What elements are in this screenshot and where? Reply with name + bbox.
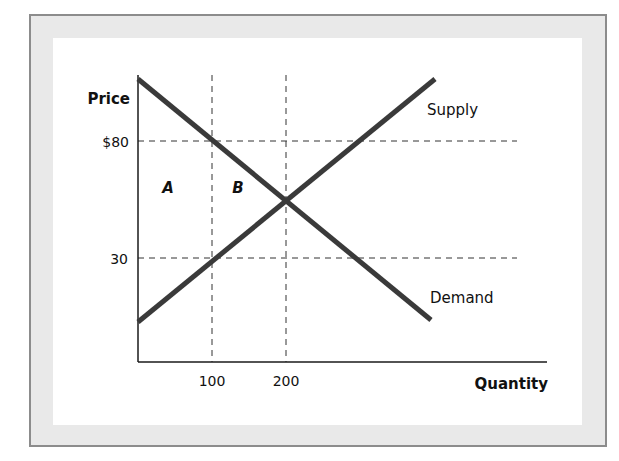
demand-label: Demand [430,289,494,307]
supply-label: Supply [427,101,478,119]
y-tick-30: 30 [110,251,128,267]
x-axis-label: Quantity [475,375,549,393]
area-a-label: A [161,179,174,197]
x-tick-200: 200 [273,373,300,389]
y-tick-80: $80 [102,134,129,150]
y-axis-label: Price [87,90,130,108]
x-tick-100: 100 [199,373,226,389]
supply-demand-chart: Price Quantity $80 30 100 200 Supply Dem… [0,0,619,461]
area-b-label: B [232,179,243,197]
